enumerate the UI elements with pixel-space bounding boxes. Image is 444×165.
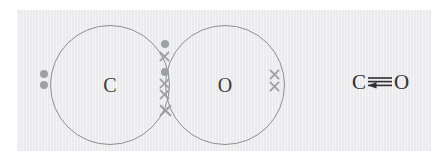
formula-notation: C O (352, 67, 409, 97)
diagram-canvas: C O C (0, 0, 444, 165)
shared-cross-3 (159, 89, 170, 100)
triple-bond-with-dative-arrow (367, 73, 393, 91)
carbon-atom-label: C (90, 75, 130, 95)
formula-right-atom: O (394, 72, 409, 93)
oxygen-atom-label: O (205, 75, 245, 95)
shared-cross-2 (159, 78, 170, 89)
formula-left-atom: C (352, 72, 366, 93)
carbon-lone-pair-dot-1 (40, 70, 48, 78)
oxygen-lone-pair-cross-2 (269, 81, 280, 92)
shared-dot-1 (161, 40, 169, 48)
shared-cross-4 (159, 104, 172, 117)
oxygen-lone-pair-cross-1 (269, 69, 280, 80)
shared-dot-2 (161, 68, 169, 76)
shared-cross-1 (159, 51, 170, 62)
carbon-lone-pair-dot-2 (40, 81, 48, 89)
